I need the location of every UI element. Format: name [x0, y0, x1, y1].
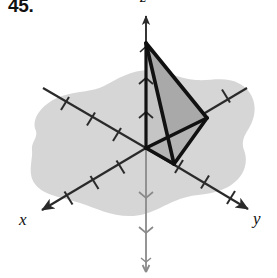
problem-number: 45. — [8, 0, 34, 16]
y-axis-label: y — [253, 209, 261, 229]
z-axis-label: z — [140, 0, 146, 6]
figure-container: 45. x y z — [0, 0, 277, 278]
x-axis-label: x — [19, 210, 27, 230]
coordinate-diagram-svg — [0, 0, 277, 278]
